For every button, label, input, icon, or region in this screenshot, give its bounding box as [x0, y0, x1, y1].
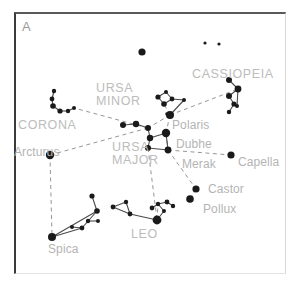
star-label-arcturus: Arcturus	[14, 146, 59, 158]
star-marker	[182, 98, 186, 102]
constellation-line	[52, 211, 97, 237]
star-marker	[150, 206, 155, 211]
star-marker	[235, 104, 239, 108]
star-marker	[80, 226, 85, 231]
star-marker	[153, 216, 162, 225]
star-marker	[138, 48, 145, 55]
star-marker	[50, 97, 55, 102]
star-marker	[186, 195, 194, 203]
star-label-castor: Castor	[208, 183, 244, 195]
star-marker	[145, 125, 151, 131]
star-marker	[227, 110, 231, 114]
constellation-label-line: CASSIOPEIA	[192, 68, 274, 81]
star-marker	[203, 41, 206, 44]
star-marker	[161, 101, 167, 107]
star-marker	[156, 202, 160, 206]
constellation-label-cassiopeia: CASSIOPEIA	[192, 68, 274, 81]
constellation-label-line: URSA	[96, 82, 141, 95]
star-marker	[111, 205, 116, 210]
constellation-label-line: MINOR	[96, 95, 141, 108]
star-marker	[50, 103, 56, 109]
constellation-label-ursa-major: URSAMAJOR	[112, 141, 159, 167]
star-marker	[133, 121, 139, 127]
star-marker	[52, 89, 56, 93]
star-marker	[164, 90, 168, 94]
star-marker	[162, 129, 170, 137]
star-label-pollux: Pollux	[203, 203, 236, 215]
constellation-label-line: CORONA	[18, 119, 76, 132]
constellation-label-leo: LEO	[131, 228, 158, 241]
constellation-label-corona: CORONA	[18, 119, 76, 132]
star-marker	[235, 86, 242, 93]
star-label-dubhe: Dubhe	[176, 138, 212, 150]
star-marker	[86, 219, 90, 223]
constellation-label-line: URSA	[112, 141, 159, 154]
star-marker	[57, 108, 62, 113]
star-marker	[155, 94, 160, 99]
star-marker	[227, 151, 234, 158]
star-marker	[89, 193, 94, 198]
star-marker	[96, 219, 100, 223]
star-marker	[162, 209, 166, 213]
pointer-line	[50, 155, 52, 237]
star-marker	[170, 97, 175, 102]
star-marker	[124, 200, 128, 204]
star-marker	[120, 122, 126, 128]
constellation-label-ursa-minor: URSAMINOR	[96, 82, 141, 108]
constellation-label-line: LEO	[131, 228, 158, 241]
star-label-capella: Capella	[238, 156, 279, 168]
star-marker	[217, 42, 220, 45]
star-marker	[165, 147, 172, 154]
star-marker	[48, 233, 56, 241]
star-marker	[94, 208, 100, 214]
star-marker	[128, 212, 133, 217]
star-chart-figure: A PolarisDubheMerakCapellaCastorPolluxAr…	[0, 0, 296, 291]
star-label-polaris: Polaris	[172, 119, 209, 131]
star-marker	[72, 106, 76, 110]
star-marker	[70, 225, 74, 229]
constellation-line	[52, 228, 82, 237]
star-label-merak: Merak	[182, 158, 216, 170]
star-marker	[226, 93, 232, 99]
star-label-spica: Spica	[48, 243, 79, 255]
constellation-label-line: MAJOR	[112, 154, 159, 167]
star-marker	[165, 200, 170, 205]
star-marker	[171, 204, 175, 208]
star-marker	[192, 185, 199, 192]
star-marker	[66, 109, 70, 113]
